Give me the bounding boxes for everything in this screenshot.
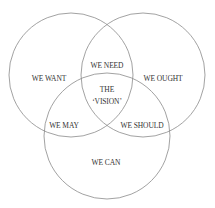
label-we-ought: WE OUGHT <box>144 74 183 84</box>
label-we-want: WE WANT <box>32 74 66 84</box>
label-we-should: WE SHOULD <box>120 121 163 131</box>
label-vision: ‘VISION’ <box>92 97 122 107</box>
label-we-need: WE NEED <box>91 61 124 71</box>
label-we-may: WE MAY <box>49 121 79 131</box>
label-we-can: WE CAN <box>92 158 121 168</box>
label-the: THE <box>100 85 114 95</box>
circle-we-want <box>9 13 133 137</box>
